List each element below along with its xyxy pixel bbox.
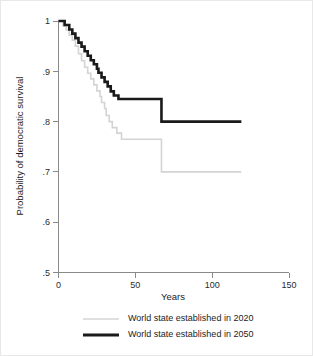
y-tick-label: .6 [42,217,50,227]
legend-label-0: World state established in 2020 [128,313,253,323]
y-axis-ticks: .5.6.7.8.91 [42,16,58,278]
x-tick-label: 0 [56,280,61,290]
x-tick-label: 50 [130,280,140,290]
y-tick-label: .8 [42,117,50,127]
chart-canvas: .5.6.7.8.91 050100150 Years Probability … [1,1,313,356]
legend-label-1: World state established in 2050 [128,329,253,339]
y-tick-label: .7 [42,167,50,177]
series-line-1 [59,21,242,122]
x-axis-ticks: 050100150 [56,273,297,291]
series-lines [59,21,242,172]
survival-chart-figure: .5.6.7.8.91 050100150 Years Probability … [0,0,313,356]
y-tick-label: 1 [45,16,50,26]
x-tick-label: 150 [281,280,296,290]
x-axis-label: Years [161,291,185,302]
chart-legend: World state established in 2020World sta… [83,313,253,339]
y-tick-label: .9 [42,67,50,77]
y-tick-label: .5 [42,268,50,278]
y-axis-label: Probability of democratic survival [14,77,25,216]
series-line-0 [59,21,242,172]
x-tick-label: 100 [205,280,220,290]
